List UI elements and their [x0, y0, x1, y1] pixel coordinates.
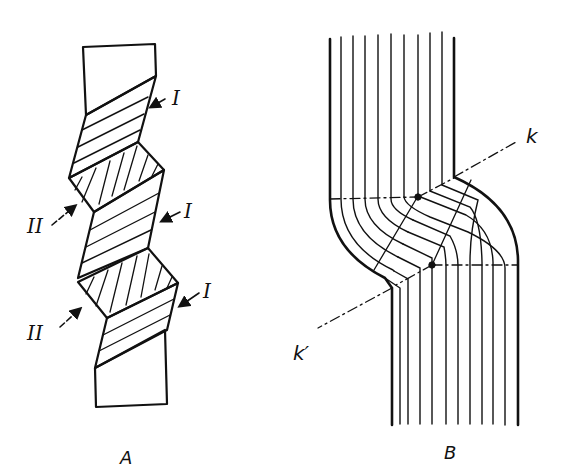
label-ii-2: II — [26, 321, 44, 345]
caption-b: B — [444, 442, 456, 463]
lower-dot — [429, 262, 435, 268]
band-transverse — [374, 180, 471, 270]
label-i-3: I — [202, 279, 212, 303]
right-border — [454, 38, 518, 425]
segment-bottom — [95, 330, 167, 407]
caption-a: A — [119, 447, 132, 468]
segment-top — [83, 44, 156, 115]
arrow-ii-1 — [52, 206, 75, 225]
segment-ii-1 — [69, 142, 164, 212]
upper-lamellae — [341, 32, 442, 271]
panel-b — [318, 32, 518, 425]
hatch-i-2 — [82, 193, 159, 263]
arrow-ii-2 — [60, 309, 80, 327]
label-k-prime: k′ — [293, 341, 310, 365]
label-i-1: I — [171, 86, 181, 110]
label-i-2: I — [183, 199, 193, 223]
segment-i-1 — [69, 76, 156, 178]
arrow-i-2 — [162, 212, 180, 221]
label-ii-1: II — [26, 214, 44, 238]
upper-dot — [415, 194, 421, 200]
arrow-i-1 — [151, 99, 165, 107]
k-prime-plane — [318, 288, 392, 328]
arrow-i-3 — [180, 293, 199, 306]
hatch-ii-1 — [75, 146, 158, 204]
k-plane — [454, 142, 516, 177]
label-k: k — [526, 124, 539, 148]
hatch-ii-2 — [86, 254, 172, 312]
hatch-i-3 — [99, 299, 174, 351]
figure-canvas: I II I II I A — [0, 0, 564, 476]
